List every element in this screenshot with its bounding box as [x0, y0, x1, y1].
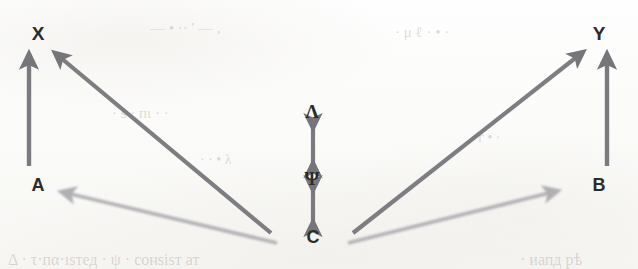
edge-c-to-y [353, 52, 583, 233]
node-label-x: X [32, 24, 45, 43]
node-label-a: A [32, 176, 45, 194]
node-label-lam: Λ [305, 102, 319, 121]
figure-canvas: — • ·· ' — ,· μ ℓ · • ·· ѕ · пι · ·· · •… [0, 0, 638, 269]
node-label-y: Y [593, 24, 606, 43]
edge-c-to-x [55, 53, 271, 233]
edge-c-to-b [348, 191, 557, 243]
node-label-c: C [307, 228, 320, 246]
node-label-psi: Ψ [305, 169, 320, 188]
edge-c-to-a [62, 192, 277, 243]
node-label-b: B [593, 176, 606, 194]
